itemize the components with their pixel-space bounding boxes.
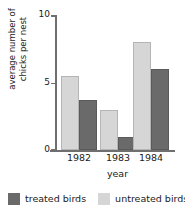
chart-legend: treated birds untreated birds	[0, 190, 185, 208]
x-axis-tick-labels: 1982 1983 1984	[55, 152, 180, 166]
x-tick-label-1983: 1983	[101, 152, 135, 164]
x-axis-title: year	[55, 168, 180, 179]
y-axis-title-line-1: average number of	[7, 0, 18, 101]
bar-1982-untreated	[61, 76, 79, 150]
plot-area	[55, 15, 175, 150]
legend-item-treated-birds: treated birds	[8, 193, 86, 205]
bar-group-1982	[61, 15, 97, 150]
y-tick-mark-10	[51, 15, 56, 17]
legend-swatch-treated	[8, 193, 20, 205]
bar-1984-untreated	[133, 42, 151, 150]
bar-group-1983	[100, 15, 136, 150]
y-tick-mark-5	[51, 83, 56, 85]
y-axis-tick-labels: 10 5 0	[22, 15, 50, 150]
y-tick-mark-0	[51, 149, 56, 151]
y-tick-label-5: 5	[28, 78, 50, 87]
bar-1983-untreated	[100, 110, 118, 151]
legend-label-treated: treated birds	[25, 193, 86, 205]
legend-swatch-untreated	[98, 193, 110, 205]
bar-1982-treated	[79, 100, 97, 150]
y-tick-label-10: 10	[28, 10, 50, 19]
legend-label-untreated: untreated birds	[115, 193, 185, 205]
x-tick-label-1982: 1982	[62, 152, 96, 164]
legend-item-untreated-birds: untreated birds	[98, 193, 185, 205]
y-tick-label-0: 0	[28, 145, 50, 154]
bar-group-1984	[133, 15, 169, 150]
chart-figure: average number of chicks per nest 10 5 0	[0, 0, 185, 214]
x-tick-label-1984: 1984	[134, 152, 168, 164]
bar-1984-treated	[151, 69, 169, 150]
